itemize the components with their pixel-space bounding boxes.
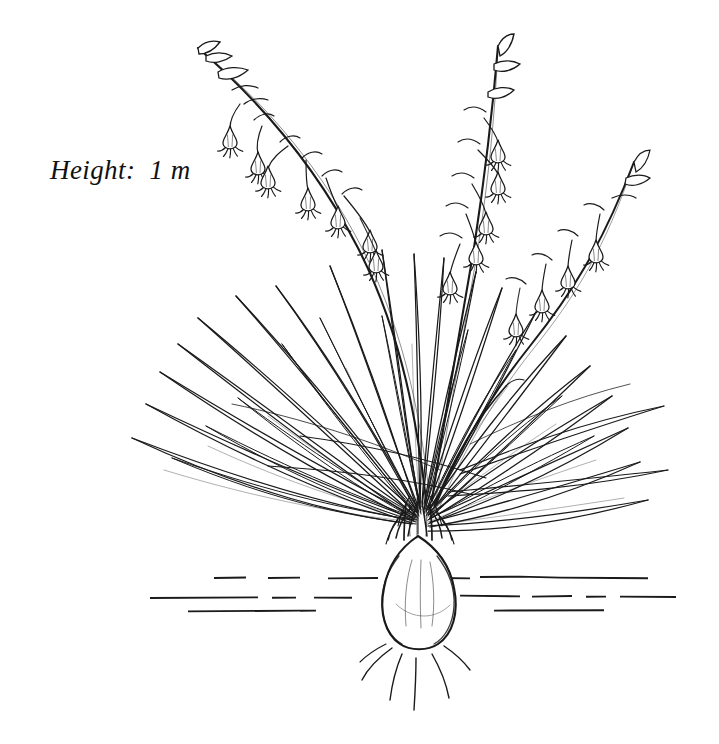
plant-drawing bbox=[0, 0, 719, 744]
flower-stalk-right bbox=[436, 150, 650, 506]
bell-flower-group-left bbox=[218, 104, 389, 282]
height-label: Height: 1 m bbox=[50, 157, 191, 184]
leaf-fan bbox=[132, 250, 668, 531]
botanical-illustration: Height: 1 m bbox=[0, 0, 719, 744]
flower-stalk-left bbox=[198, 41, 430, 500]
bell-flower-group-center bbox=[438, 118, 511, 304]
ink-layer bbox=[132, 34, 676, 710]
roots bbox=[360, 644, 470, 710]
